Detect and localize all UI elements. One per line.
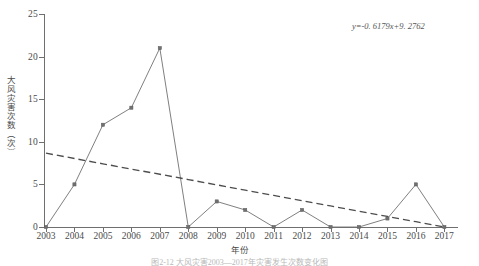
data-point-marker [130, 106, 133, 109]
x-axis-tick-label: 2017 [435, 231, 454, 241]
x-axis-tick-label: 2004 [65, 231, 84, 241]
data-series-path [46, 48, 444, 227]
x-axis-tick-label: 2010 [236, 231, 255, 241]
y-axis-tick [39, 99, 44, 100]
y-axis-tick-label: 10 [28, 137, 38, 147]
x-axis-tick-label: 2014 [349, 231, 368, 241]
x-axis-tick-label: 2016 [406, 231, 425, 241]
x-axis-tick-label: 2006 [122, 231, 141, 241]
trendline-path [46, 153, 444, 227]
data-point-marker [300, 208, 303, 211]
data-point-marker [414, 183, 417, 186]
y-axis-tick-label: 15 [28, 94, 38, 104]
y-axis-tick [39, 142, 44, 143]
y-axis-tick [39, 57, 44, 58]
figure-caption: 图2-12 大风灾害2003—2017年灾害发生次数变化图 [0, 256, 479, 266]
y-axis-tick-labels: 0510152025 [0, 14, 38, 228]
y-axis-tick-label: 25 [28, 9, 38, 19]
y-axis-tick-label: 5 [33, 179, 38, 189]
data-point-marker [215, 200, 218, 203]
x-axis-tick-label: 2005 [93, 231, 112, 241]
x-axis-tick-label: 2007 [150, 231, 169, 241]
x-axis-tick-label: 2012 [293, 231, 312, 241]
x-axis-tick-label: 2009 [207, 231, 226, 241]
data-point-marker [73, 183, 76, 186]
x-axis-tick-label: 2011 [264, 231, 283, 241]
y-axis-tick [39, 14, 44, 15]
chart-canvas [44, 14, 458, 228]
y-axis-tick [39, 227, 44, 228]
x-axis-title: 年份 [0, 243, 479, 255]
y-axis-tick [39, 184, 44, 185]
plot-area [44, 14, 458, 228]
figure-container: 大风灾害次数（次） 0510152025 2003200420052006200… [0, 0, 479, 266]
trendline-equation-label: y=-0. 6179x+9. 2762 [352, 21, 425, 31]
data-point-marker [101, 123, 104, 126]
y-axis-tick-label: 20 [28, 52, 38, 62]
data-point-marker [386, 217, 389, 220]
x-axis-tick-label: 2003 [37, 231, 56, 241]
data-point-marker [158, 46, 161, 49]
data-point-marker [244, 208, 247, 211]
x-axis-tick-label: 2013 [321, 231, 340, 241]
x-axis-tick-label: 2008 [179, 231, 198, 241]
x-axis-tick-label: 2015 [378, 231, 397, 241]
